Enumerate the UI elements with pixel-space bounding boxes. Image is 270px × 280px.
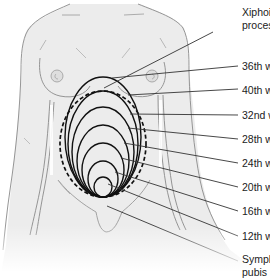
left-areola: [51, 70, 63, 82]
label-20th-week: 20th week: [242, 181, 270, 193]
label-xiphoid-process: Xiphoid process: [242, 6, 270, 32]
label-symphysis-line1: Symphysis: [242, 253, 270, 266]
right-arm-gap: [159, 100, 162, 170]
label-xiphoid-line2: process: [242, 19, 270, 32]
label-symphysis-pubis: Symphysis pubis: [242, 253, 270, 279]
label-36th-week: 36th week: [242, 60, 270, 72]
label-32nd-week: 32nd week: [242, 109, 270, 121]
right-areola: [146, 70, 158, 82]
bottom-fade: [0, 225, 270, 280]
label-40th-week: 40th week: [242, 84, 270, 96]
label-16th-week: 16th week: [242, 205, 270, 217]
label-12th-week: 12th week: [242, 230, 270, 242]
label-24th-week: 24th week: [242, 157, 270, 169]
left-arm-gap: [50, 105, 53, 175]
label-xiphoid-line1: Xiphoid: [242, 6, 270, 19]
label-28th-week: 28th week: [242, 133, 270, 145]
label-symphysis-line2: pubis: [242, 266, 270, 279]
